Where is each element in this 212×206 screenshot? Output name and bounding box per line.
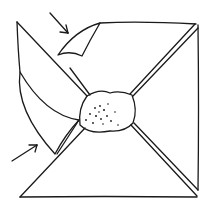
right-edge (198, 25, 199, 190)
lower-curled-flap (19, 72, 79, 154)
folded-square-drawing (0, 0, 212, 206)
bottom-edge (20, 197, 197, 198)
bottom-arrow-icon (12, 145, 37, 161)
center-blob (80, 91, 136, 132)
lower-left-fold (20, 128, 85, 197)
upper-right-fold-b (133, 28, 198, 96)
lower-right-fold-a (131, 125, 197, 196)
lower-right-fold-b (134, 123, 198, 190)
top-arrow-icon (50, 13, 68, 33)
left-edge-upper (17, 22, 20, 72)
upper-right-fold-a (130, 24, 195, 94)
blob-dots (85, 103, 119, 126)
upper-left-fold (17, 22, 87, 96)
top-edge (100, 22, 196, 24)
